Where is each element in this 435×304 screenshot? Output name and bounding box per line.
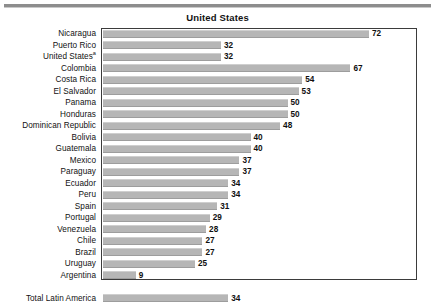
bar-row[interactable]: Brazil27 — [0, 247, 435, 259]
bar[interactable] — [103, 179, 229, 187]
bar-track: 28 — [103, 225, 418, 233]
bar-row-label: Venezuela — [57, 224, 96, 236]
bar[interactable] — [103, 30, 369, 38]
bar[interactable] — [103, 260, 196, 268]
row-spacer — [0, 281, 435, 293]
bar-row-label: Spain — [75, 201, 96, 213]
bar-row[interactable]: Puerto Rico32 — [0, 40, 435, 52]
bar[interactable] — [103, 191, 229, 199]
bar-value-label: 67 — [353, 63, 362, 75]
bar-row[interactable]: Spain31 — [0, 201, 435, 213]
bar-track: 9 — [103, 271, 418, 279]
bar-row-label: Total Latin America — [26, 293, 96, 304]
top-divider-rule-thin — [4, 7, 431, 8]
bar-row-label: Bolivia — [72, 132, 96, 144]
bar-track: 32 — [103, 41, 418, 49]
bar-value-label: 40 — [254, 132, 263, 144]
bar-row-label: Portugal — [65, 212, 96, 224]
bar-value-label: 40 — [254, 143, 263, 155]
bar-track: 25 — [103, 260, 418, 268]
bar-row[interactable]: Peru34 — [0, 189, 435, 201]
bar-row[interactable]: Chile27 — [0, 235, 435, 247]
bar-track: 34 — [103, 294, 418, 302]
bar-row-label: El Salvador — [54, 86, 96, 98]
bar-row-label: Paraguay — [61, 166, 96, 178]
bar-row-label: Brazil — [75, 247, 96, 259]
bar[interactable] — [103, 53, 221, 61]
bar-row[interactable]: Nicaragua72 — [0, 28, 435, 40]
bar-row-label: United Statesa — [43, 51, 96, 63]
bar-row-label: Ecuador — [65, 178, 96, 190]
bar-row[interactable]: Bolivia40 — [0, 132, 435, 144]
bar[interactable] — [103, 168, 240, 176]
bar-row[interactable]: Venezuela28 — [0, 224, 435, 236]
bar[interactable] — [103, 225, 207, 233]
bar[interactable] — [103, 202, 218, 210]
footnote-marker: a — [93, 50, 96, 56]
bar-row[interactable]: Argentina9 — [0, 270, 435, 282]
bar-track: 37 — [103, 156, 418, 164]
bar-row-label: Guatemala — [56, 143, 97, 155]
bar-track: 53 — [103, 87, 418, 95]
bar-value-label: 28 — [209, 224, 218, 236]
bar-row-label: Argentina — [61, 270, 97, 282]
bar-row-label: Nicaragua — [58, 28, 96, 40]
bar-value-label: 53 — [302, 86, 311, 98]
bar[interactable] — [103, 145, 251, 153]
bar-value-label: 37 — [242, 166, 251, 178]
bar-track: 34 — [103, 179, 418, 187]
chart-title: United States — [0, 12, 435, 23]
bar[interactable] — [103, 76, 303, 84]
bar-row[interactable]: Paraguay37 — [0, 166, 435, 178]
bar-row[interactable]: Mexico37 — [0, 155, 435, 167]
bar[interactable] — [103, 237, 203, 245]
bar[interactable] — [103, 156, 240, 164]
bar-row[interactable]: Total Latin America34 — [0, 293, 435, 304]
bar-row-label: Puerto Rico — [53, 40, 96, 52]
bar-row[interactable]: Dominican Republic48 — [0, 120, 435, 132]
bar-row-label: Honduras — [60, 109, 96, 121]
bar-track: 67 — [103, 64, 418, 72]
bar-value-label: 27 — [205, 247, 214, 259]
bar-track: 48 — [103, 122, 418, 130]
bar[interactable] — [103, 248, 203, 256]
bar-value-label: 50 — [291, 97, 300, 109]
bar-row[interactable]: Costa Rica54 — [0, 74, 435, 86]
bar-row[interactable]: Portugal29 — [0, 212, 435, 224]
bar-value-label: 27 — [205, 235, 214, 247]
bar-row[interactable]: Guatemala40 — [0, 143, 435, 155]
bar-track: 40 — [103, 145, 418, 153]
bar-row[interactable]: Ecuador34 — [0, 178, 435, 190]
bar-track: 31 — [103, 202, 418, 210]
bar-row[interactable]: Uruguay25 — [0, 258, 435, 270]
bar-track: 34 — [103, 191, 418, 199]
bar-row[interactable]: Honduras50 — [0, 109, 435, 121]
bar-value-label: 72 — [372, 28, 381, 40]
bar-value-label: 50 — [291, 109, 300, 121]
bar[interactable] — [103, 87, 299, 95]
bar[interactable] — [103, 64, 351, 72]
bar[interactable] — [103, 99, 288, 107]
bar-row-label: Colombia — [61, 63, 96, 75]
bar-track: 50 — [103, 110, 418, 118]
bar-track: 32 — [103, 53, 418, 61]
bar[interactable] — [103, 271, 136, 279]
bar[interactable] — [103, 294, 229, 302]
bar[interactable] — [103, 214, 210, 222]
bar-row[interactable]: Colombia67 — [0, 63, 435, 75]
bar-track: 27 — [103, 237, 418, 245]
bar-value-label: 54 — [305, 74, 314, 86]
bar[interactable] — [103, 41, 221, 49]
bar-track: 27 — [103, 248, 418, 256]
bar-value-label: 9 — [139, 270, 144, 282]
bar-row[interactable]: Panama50 — [0, 97, 435, 109]
bar[interactable] — [103, 110, 288, 118]
bar-row[interactable]: United Statesa32 — [0, 51, 435, 63]
bar-value-label: 25 — [198, 258, 207, 270]
bar-row-label: Dominican Republic — [22, 120, 96, 132]
bar-row[interactable]: El Salvador53 — [0, 86, 435, 98]
bar[interactable] — [103, 133, 251, 141]
bar-track: 72 — [103, 30, 418, 38]
bar-rows-container: Nicaragua72Puerto Rico32United Statesa32… — [0, 28, 435, 280]
bar[interactable] — [103, 122, 281, 130]
